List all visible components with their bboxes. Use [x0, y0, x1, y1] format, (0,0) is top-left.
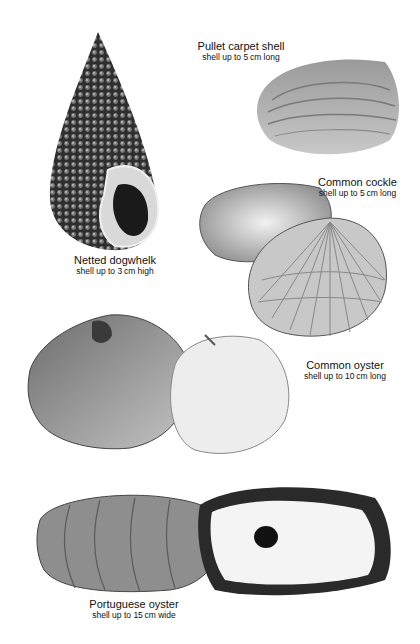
specimen-name: Common cockle — [305, 176, 410, 189]
specimen-size: shell up to 3 cm high — [60, 267, 170, 277]
specimen-size: shell up to 10 cm long — [285, 372, 405, 382]
illustrations — [0, 0, 420, 644]
specimen-size: shell up to 15 cm wide — [72, 611, 196, 621]
specimen-name: Common oyster — [285, 359, 405, 372]
label-common-cockle: Common cockle shell up to 5 cm long — [305, 176, 410, 198]
common-oyster-illustration — [28, 315, 289, 454]
common-cockle-illustration — [200, 183, 387, 336]
specimen-size: shell up to 5 cm long — [176, 53, 306, 63]
label-common-oyster: Common oyster shell up to 10 cm long — [285, 359, 405, 381]
netted-dogwhelk-illustration — [50, 32, 158, 250]
specimen-size: shell up to 5 cm long — [305, 189, 410, 199]
label-pullet-carpet-shell: Pullet carpet shell shell up to 5 cm lon… — [176, 40, 306, 62]
specimen-name: Portuguese oyster — [72, 598, 196, 611]
label-netted-dogwhelk: Netted dogwhelk shell up to 3 cm high — [60, 254, 170, 276]
specimen-name: Netted dogwhelk — [60, 254, 170, 267]
specimen-name: Pullet carpet shell — [176, 40, 306, 53]
label-portuguese-oyster: Portuguese oyster shell up to 15 cm wide — [72, 598, 196, 620]
portuguese-oyster-illustration — [37, 487, 391, 595]
pullet-carpet-shell-illustration — [257, 60, 399, 155]
shell-plate: Pullet carpet shell shell up to 5 cm lon… — [0, 0, 420, 644]
